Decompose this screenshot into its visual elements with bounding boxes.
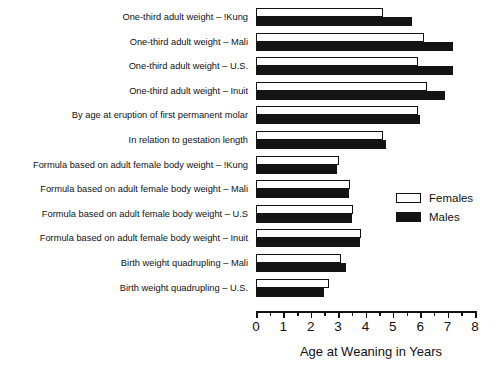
bar-females [256, 106, 418, 115]
category-label: Birth weight quadrupling – U.S. [120, 283, 248, 293]
legend: Females Males [396, 190, 473, 228]
x-axis-tick-label: 6 [416, 319, 424, 334]
bar-females [256, 156, 339, 165]
category-axis-labels: One-third adult weight – !KungOne-third … [0, 0, 252, 311]
bar-females [256, 8, 383, 17]
bar-females [256, 180, 350, 189]
x-axis-tick-major [393, 311, 395, 318]
x-axis-tick-minor [461, 311, 463, 316]
bar-males [256, 189, 349, 198]
category-label: One-third adult weight – Mali [130, 37, 248, 47]
legend-swatch-males-icon [396, 212, 421, 222]
legend-label-females: Females [429, 192, 473, 204]
x-axis-tick-minor [270, 311, 272, 316]
x-axis-tick-label: 0 [252, 319, 260, 334]
bar-males [256, 263, 346, 272]
bar-males [256, 115, 420, 124]
legend-label-males: Males [429, 211, 460, 223]
plot-area [256, 0, 476, 311]
bar-males [256, 66, 453, 75]
legend-item-females: Females [396, 190, 473, 206]
x-axis-tick-major [448, 311, 450, 318]
x-axis-tick-label: 3 [334, 319, 342, 334]
bar-females [256, 57, 418, 66]
x-axis-tick-major [283, 311, 285, 318]
x-axis-tick-minor [407, 311, 409, 316]
bar-males [256, 165, 337, 174]
legend-swatch-females-icon [396, 193, 421, 203]
x-axis-tick-label: 2 [307, 319, 315, 334]
bar-females [256, 279, 329, 288]
bar-males [256, 17, 412, 26]
x-axis-tick-major [475, 311, 477, 318]
x-axis: 012345678 [256, 311, 475, 341]
x-axis-tick-major [256, 311, 258, 318]
x-axis-title: Age at Weaning in Years [256, 344, 486, 359]
x-axis-tick-major [366, 311, 368, 318]
x-axis-tick-minor [352, 311, 354, 316]
x-axis-tick-minor [297, 311, 299, 316]
bar-females [256, 205, 353, 214]
bar-females [256, 82, 427, 91]
x-axis-tick-minor [434, 311, 436, 316]
bar-males [256, 140, 386, 149]
x-axis-tick-label: 5 [389, 319, 397, 334]
category-label: Formula based on adult female body weigh… [33, 160, 248, 170]
x-axis-tick-major [420, 311, 422, 318]
x-axis-tick-label: 8 [471, 319, 479, 334]
bar-males [256, 91, 445, 100]
bar-males [256, 42, 453, 51]
category-label: Formula based on adult female body weigh… [40, 233, 248, 243]
bar-females [256, 229, 361, 238]
x-axis-tick-major [311, 311, 313, 318]
category-label: Formula based on adult female body weigh… [40, 184, 248, 194]
category-label: Formula based on adult female body weigh… [42, 209, 248, 219]
category-label: In relation to gestation length [129, 135, 248, 145]
x-axis-tick-label: 1 [280, 319, 288, 334]
x-axis-tick-minor [324, 311, 326, 316]
x-axis-tick-label: 4 [362, 319, 370, 334]
bar-males [256, 238, 360, 247]
category-label: One-third adult weight – U.S. [129, 61, 248, 71]
bar-males [256, 214, 352, 223]
category-label: One-third adult weight – !Kung [122, 12, 248, 22]
bar-males [256, 288, 324, 297]
x-axis-tick-major [338, 311, 340, 318]
legend-item-males: Males [396, 209, 473, 225]
bar-females [256, 33, 424, 42]
bar-females [256, 254, 341, 263]
bar-chart: One-third adult weight – !KungOne-third … [0, 0, 498, 377]
category-label: One-third adult weight – Inuit [129, 86, 248, 96]
x-axis-tick-label: 7 [444, 319, 452, 334]
category-label: Birth weight quadrupling – Mali [121, 258, 248, 268]
x-axis-tick-minor [379, 311, 381, 316]
bar-females [256, 131, 383, 140]
category-label: By age at eruption of first permanent mo… [72, 110, 248, 120]
